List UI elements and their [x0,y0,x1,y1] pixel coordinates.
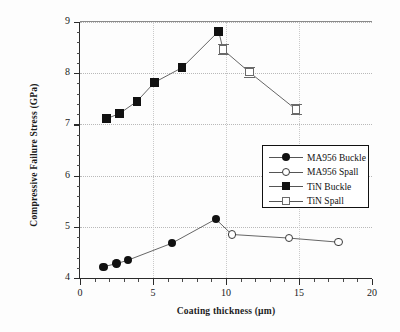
legend-swatch [282,182,290,190]
x-tick-label: 10 [215,287,237,298]
legend-label: MA956 Spall [303,167,358,177]
data-point-tin-buckle [115,109,124,118]
y-tick-major [74,22,80,23]
y-tick-minor [77,42,80,43]
data-point-ma956-buckle [124,256,132,264]
legend-item-tin-spall[interactable]: TiN Spall [269,194,344,209]
legend-label: TiN Buckle [303,182,351,192]
line-tin-buckle [106,31,218,119]
data-point-ma956-buckle [112,259,120,267]
y-tick-label: 7 [48,117,70,128]
x-axis-title: Coating thickness (µm) [80,306,372,316]
x-tick-minor [357,279,358,282]
x-tick-minor [211,279,212,282]
y-tick-minor [77,63,80,64]
data-point-tin-spall [292,105,301,114]
x-tick-minor [109,279,110,282]
legend-item-ma956-buckle[interactable]: MA956 Buckle [269,150,366,165]
data-point-tin-spall [219,45,228,54]
y-tick-minor [77,53,80,54]
x-tick-minor [124,279,125,282]
y-tick-major [74,176,80,177]
y-tick-label: 8 [48,66,70,77]
y-tick-label: 6 [48,169,70,180]
legend-marker-open-square-errorbar-icon [269,194,303,208]
y-tick-minor [77,196,80,197]
data-point-tin-spall [245,68,254,77]
legend-label: MA956 Buckle [303,153,366,163]
legend-swatch [282,168,290,176]
data-point-ma956-buckle [99,263,107,271]
y-tick-minor [77,217,80,218]
error-bar-cap-bottom [291,114,302,115]
y-tick-label: 4 [48,271,70,282]
chart-legend: MA956 BuckleMA956 SpallTiN BuckleTiN Spa… [262,145,369,208]
x-tick-minor [284,279,285,282]
legend-swatch [282,197,290,205]
x-tick-minor [95,279,96,282]
y-tick-label: 9 [48,15,70,26]
x-tick-minor [328,279,329,282]
error-bar-cap-bottom [218,54,229,55]
x-tick-label: 15 [288,287,310,298]
y-tick-minor [77,135,80,136]
y-axis-line [79,22,80,278]
y-tick-minor [77,145,80,146]
y-tick-label: 5 [48,220,70,231]
x-tick-major [153,279,154,285]
y-tick-minor [77,32,80,33]
x-tick-minor [138,279,139,282]
data-point-ma956-spall [285,234,293,242]
y-tick-minor [77,258,80,259]
error-bar-cap-bottom [244,77,255,78]
x-tick-major [299,279,300,285]
x-tick-label: 20 [361,287,383,298]
x-tick-label: 5 [142,287,164,298]
data-point-tin-buckle [150,78,159,87]
legend-label: TiN Spall [303,196,344,206]
top-axis-line [80,21,372,22]
y-axis-title: Compressive Failure Stress (GPa) [29,25,39,285]
y-tick-major [74,124,80,125]
y-tick-minor [77,268,80,269]
data-point-tin-buckle [133,97,142,106]
x-tick-minor [343,279,344,282]
y-tick-minor [77,237,80,238]
x-tick-major [372,279,373,285]
y-tick-minor [77,165,80,166]
y-tick-minor [77,247,80,248]
data-point-tin-buckle [102,114,111,123]
x-tick-minor [270,279,271,282]
legend-marker-filled-square-icon [269,180,303,194]
x-tick-major [80,279,81,285]
gridline-vertical [226,22,227,278]
y-tick-minor [77,104,80,105]
y-tick-minor [77,206,80,207]
data-point-tin-buckle [214,27,223,36]
data-point-ma956-buckle [168,239,176,247]
legend-swatch [282,153,290,161]
x-tick-minor [241,279,242,282]
legend-item-ma956-spall[interactable]: MA956 Spall [269,165,358,180]
y-tick-minor [77,114,80,115]
x-tick-label: 0 [69,287,91,298]
data-point-ma956-spall [334,238,342,246]
x-tick-minor [197,279,198,282]
x-tick-major [226,279,227,285]
gridline-vertical [153,22,154,278]
legend-marker-open-circle-icon [269,165,303,179]
x-tick-minor [182,279,183,282]
y-tick-major [74,227,80,228]
x-tick-minor [168,279,169,282]
chart-figure: Compressive Failure Stress (GPa) Coating… [0,0,400,332]
y-tick-minor [77,83,80,84]
line-tin-spall [219,31,296,109]
legend-marker-filled-circle-icon [269,151,303,165]
x-tick-minor [314,279,315,282]
data-point-ma956-buckle [212,215,220,223]
data-point-tin-buckle [178,63,187,72]
y-tick-minor [77,186,80,187]
y-tick-major [74,73,80,74]
x-tick-minor [255,279,256,282]
legend-item-tin-buckle[interactable]: TiN Buckle [269,179,351,194]
